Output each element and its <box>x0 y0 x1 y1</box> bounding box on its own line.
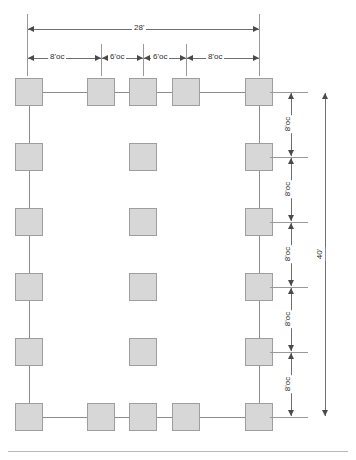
right-bay-3-arrow-down <box>288 280 294 286</box>
post-r1-c2 <box>87 78 115 106</box>
right-bay-2-label: 8'oc <box>283 180 293 198</box>
beam-left <box>29 92 30 417</box>
overall-depth-arrow-down <box>322 410 328 416</box>
right-bay-4-arrow-up <box>288 288 294 294</box>
right-bay-5-arrow-down <box>288 410 294 416</box>
overall-depth-label: 40' <box>315 247 325 261</box>
top-bay-3-arrow-left <box>144 55 150 61</box>
post-r1-c4 <box>172 78 200 106</box>
post-r4-c1 <box>15 273 43 301</box>
post-r2-c1 <box>15 143 43 171</box>
footer-divider <box>8 451 348 452</box>
post-r1-c5 <box>245 78 273 106</box>
beam-right <box>259 92 260 417</box>
top-bay-1-arrow-left <box>28 55 34 61</box>
top-bay-4-label: 8'oc <box>206 52 224 62</box>
top-bay-4-arrow-right <box>253 55 259 61</box>
post-r4-c3 <box>129 273 157 301</box>
post-r6-c1 <box>15 403 43 431</box>
top-bay-3-arrow-right <box>180 55 186 61</box>
right-bay-1-arrow-up <box>288 93 294 99</box>
post-r5-c5 <box>245 338 273 366</box>
post-r3-c5 <box>245 208 273 236</box>
extension-line-left-outer <box>27 14 28 76</box>
right-bay-4-label: 8'oc <box>283 310 293 328</box>
post-r6-c2 <box>87 403 115 431</box>
top-bay-1-arrow-right <box>95 55 101 61</box>
top-bay-1-label: 8'oc <box>48 52 66 62</box>
right-bay-2-arrow-down <box>288 215 294 221</box>
post-r6-c4 <box>172 403 200 431</box>
post-r4-c5 <box>245 273 273 301</box>
post-r5-c1 <box>15 338 43 366</box>
extension-line-row-6 <box>270 417 308 418</box>
right-bay-1-label: 8'oc <box>283 115 293 133</box>
post-r1-c3 <box>129 78 157 106</box>
top-bay-2-label: 6'oc <box>108 52 126 62</box>
top-bay-3-label: 6'oc <box>151 52 169 62</box>
post-r6-c5 <box>245 403 273 431</box>
post-r5-c3 <box>129 338 157 366</box>
post-r2-c5 <box>245 143 273 171</box>
right-bay-4-arrow-down <box>288 345 294 351</box>
right-bay-2-arrow-up <box>288 158 294 164</box>
right-bay-3-arrow-up <box>288 223 294 229</box>
post-r1-c1 <box>15 78 43 106</box>
right-bay-5-arrow-up <box>288 353 294 359</box>
right-bay-3-label: 8'oc <box>283 245 293 263</box>
top-bay-2-arrow-right <box>137 55 143 61</box>
post-r3-c3 <box>129 208 157 236</box>
post-r6-c3 <box>129 403 157 431</box>
overall-width-label: 28' <box>132 23 146 33</box>
overall-width-arrow-left <box>28 26 34 32</box>
framing-plan-drawing: 28' 8'oc 6'oc 6'oc 8'oc 8'oc 8'oc 8'o <box>0 0 356 460</box>
extension-line-right-outer <box>259 14 260 76</box>
overall-width-arrow-right <box>253 26 259 32</box>
right-bay-1-arrow-down <box>288 150 294 156</box>
top-bay-4-arrow-left <box>187 55 193 61</box>
post-r2-c3 <box>129 143 157 171</box>
post-r3-c1 <box>15 208 43 236</box>
right-bay-5-label: 8'oc <box>283 375 293 393</box>
overall-depth-arrow-up <box>322 93 328 99</box>
